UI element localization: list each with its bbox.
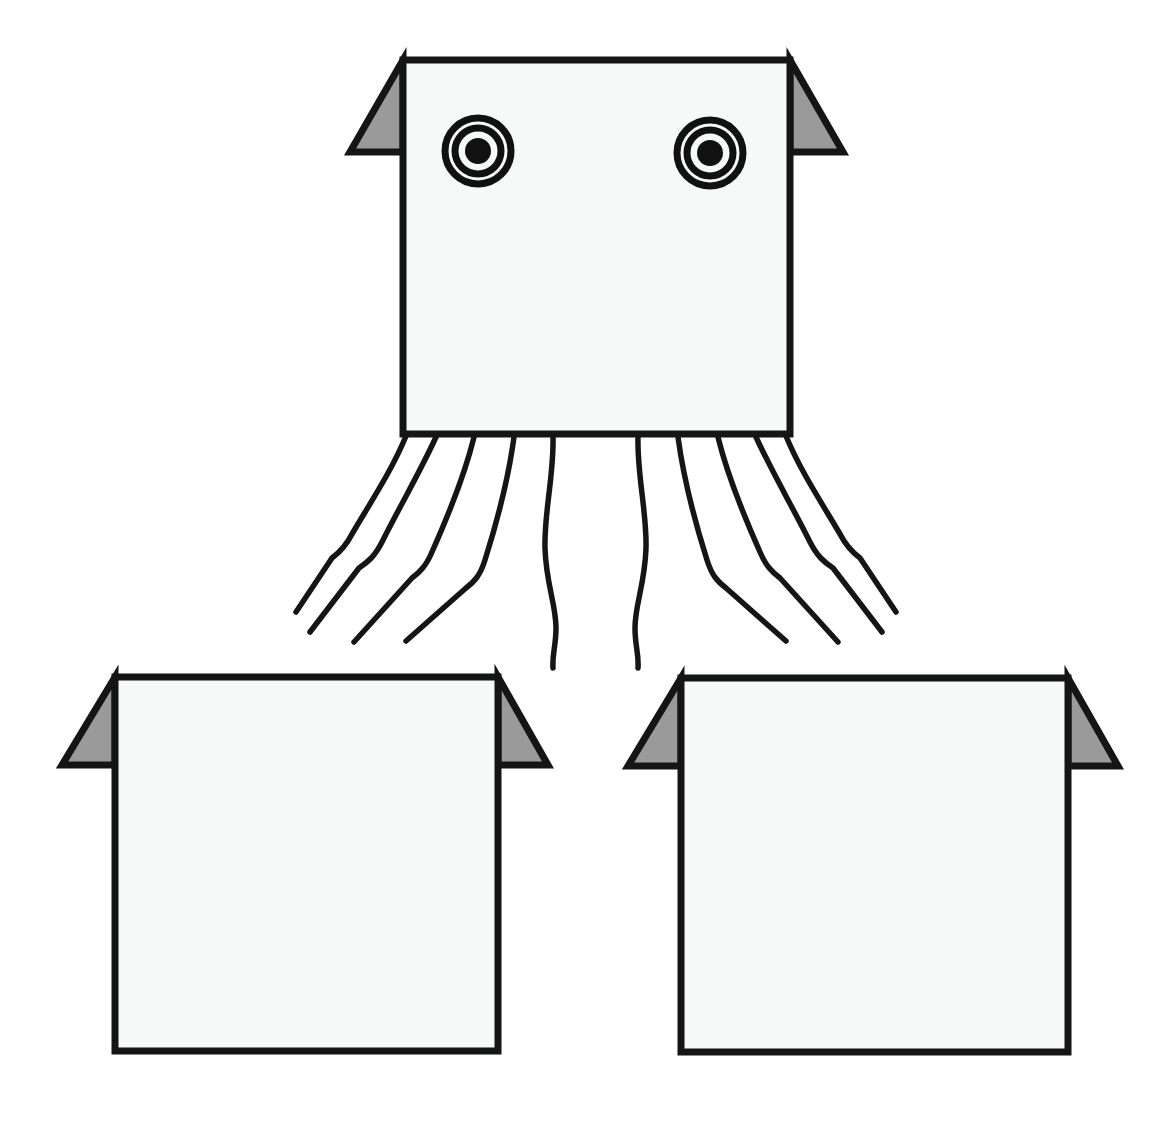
figure-main-squid bbox=[296, 60, 896, 668]
figure-template-right bbox=[628, 678, 1118, 1052]
left-fin-triangle bbox=[628, 678, 681, 766]
left-eye-bullseye-icon bbox=[445, 118, 511, 184]
right-fin-triangle bbox=[1068, 678, 1118, 766]
right-fin-triangle bbox=[790, 60, 843, 152]
tentacle-9 bbox=[756, 437, 882, 632]
left-fin-triangle bbox=[62, 677, 115, 765]
tentacle-8 bbox=[718, 437, 838, 642]
illustration-canvas bbox=[0, 0, 1176, 1129]
tentacle-2 bbox=[310, 437, 436, 632]
template-body-square bbox=[681, 678, 1068, 1052]
template-body-square bbox=[115, 677, 498, 1051]
figure-template-left bbox=[62, 677, 548, 1051]
tentacle-6 bbox=[635, 437, 646, 668]
squid-body-square bbox=[403, 60, 790, 434]
left-fin-triangle bbox=[350, 60, 403, 152]
tentacle-5 bbox=[545, 437, 556, 668]
tentacle-3 bbox=[354, 437, 474, 642]
squid-illustration bbox=[0, 0, 1176, 1129]
tentacle-group bbox=[296, 436, 896, 668]
left-eye-pupil bbox=[465, 138, 491, 164]
right-eye-pupil bbox=[697, 140, 723, 166]
right-fin-triangle bbox=[498, 677, 548, 765]
right-eye-bullseye-icon bbox=[677, 120, 743, 186]
